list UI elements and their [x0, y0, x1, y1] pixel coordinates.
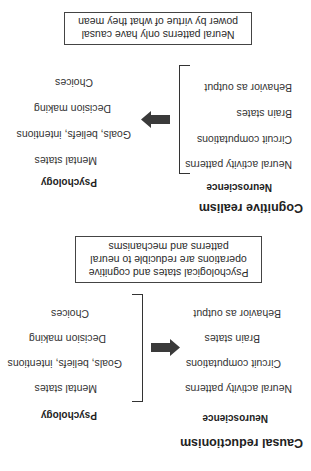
neuro-item: Behavior as output — [204, 82, 292, 94]
neuro-item: Circuit computations — [197, 134, 292, 146]
summary-text: Psychological states and cognitive opera… — [82, 240, 255, 279]
column-header-psychology: Psychology — [41, 410, 97, 421]
psych-item: Mental states — [35, 383, 97, 395]
grouping-bracket — [132, 294, 143, 402]
psych-item: Decision making — [29, 333, 106, 345]
arrow-left-icon — [151, 335, 180, 356]
psych-item: Choices — [51, 308, 89, 320]
column-header-psychology: Psychology — [41, 177, 97, 188]
neuro-item: Circuit computations — [186, 358, 281, 370]
column-header-neuroscience: Neuroscience — [206, 182, 272, 193]
neuro-item: Brain states — [205, 333, 260, 345]
psych-item: Choices — [55, 77, 93, 89]
section-title-causal-reductionism: Causal reductionism — [180, 436, 303, 450]
grouping-bracket — [179, 65, 190, 174]
summary-text: Neural patterns only have causal power b… — [71, 16, 245, 42]
column-header-neuroscience: Neuroscience — [202, 413, 268, 424]
neuro-item: Neural activity patterns — [185, 159, 292, 171]
summary-box-causal-reductionism: Psychological states and cognitive opera… — [75, 236, 262, 283]
psych-item: Decision making — [34, 103, 111, 115]
psych-item: Mental states — [35, 155, 97, 167]
psych-item: Goals, beliefs, intentions — [8, 358, 122, 370]
section-title-cognitive-realism: Cognitive realism — [199, 201, 303, 215]
summary-box-cognitive-realism: Neural patterns only have causal power b… — [64, 12, 252, 45]
arrow-right-icon — [141, 107, 170, 128]
neuro-item: Brain states — [237, 108, 292, 120]
diagram-canvas: Causal reductionism Neuroscience Psychol… — [0, 0, 311, 471]
neuro-item: Behavior as output — [193, 308, 281, 320]
neuro-item: Neural activity patterns — [185, 383, 292, 395]
psych-item: Goals, beliefs, intentions — [17, 129, 131, 141]
